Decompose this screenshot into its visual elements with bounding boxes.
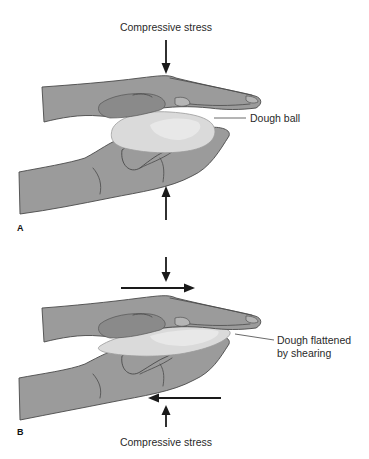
panel-b: Dough flattened by shearing B Compressiv… bbox=[17, 257, 351, 448]
arrow-right-icon bbox=[121, 284, 195, 293]
arrow-up-icon bbox=[162, 186, 171, 220]
callout-leader-b bbox=[235, 334, 274, 340]
arrow-left-icon bbox=[148, 394, 221, 403]
panel-b-bottom-label: Compressive stress bbox=[120, 436, 212, 448]
dough-kneading-figure: Compressive stress bbox=[0, 0, 369, 459]
callout-dough-flattened-line2: by shearing bbox=[277, 347, 331, 359]
arrow-down-icon bbox=[162, 40, 171, 74]
callout-dough-flattened-line1: Dough flattened bbox=[277, 334, 351, 346]
callout-dough-ball: Dough ball bbox=[250, 112, 300, 124]
panel-a-top-label: Compressive stress bbox=[120, 21, 212, 33]
arrow-down-icon bbox=[162, 257, 171, 282]
panel-a: Compressive stress bbox=[17, 21, 300, 233]
arrow-up-icon bbox=[162, 405, 171, 427]
panel-label-a: A bbox=[17, 223, 24, 233]
dough-ball bbox=[111, 112, 215, 153]
panel-label-b: B bbox=[17, 427, 24, 437]
